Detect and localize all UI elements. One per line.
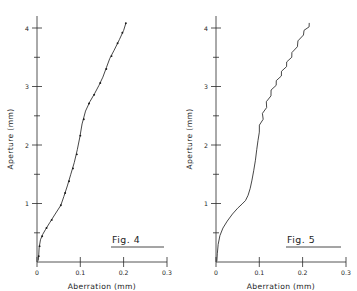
data-point [121, 32, 123, 34]
x-tick-label: 0.1 [254, 269, 264, 276]
axis-lines [216, 16, 346, 262]
x-tick-label: 0.3 [162, 269, 172, 276]
plot-canvas-fig-4: 1 2 3 4 0 0.1 0.2 0.3 Aberration (mm) Ap… [0, 0, 178, 291]
data-point [64, 192, 66, 194]
x-axis-title: Aberration (mm) [247, 282, 315, 291]
y-axis-tick-labels: 1 2 3 4 [25, 25, 29, 208]
figure-caption: Fig. 4 [112, 234, 140, 245]
data-line [38, 23, 126, 260]
figure-caption: Fig. 5 [287, 234, 315, 245]
data-point [117, 42, 119, 44]
figure-row: 1 2 3 4 0 0.1 0.2 0.3 Aberration (mm) Ap… [0, 0, 357, 291]
data-point [105, 68, 107, 70]
y-tick-label: 4 [25, 25, 29, 32]
data-series-fig-5 [217, 23, 309, 261]
data-point [60, 204, 62, 206]
y-axis-tick-labels: 1 2 3 4 [204, 25, 208, 208]
x-tick-label: 0.2 [298, 269, 308, 276]
y-axis-title: Aperture (mm) [185, 109, 194, 170]
x-tick-label: 0.1 [75, 269, 85, 276]
chart-panel-fig-5: 1 2 3 4 0 0.1 0.2 0.3 Aberration (mm) Ap… [179, 0, 357, 291]
x-tick-label: 0 [214, 269, 218, 276]
data-point [46, 227, 48, 229]
x-axis-tick-labels: 0 0.1 0.2 0.3 [214, 269, 351, 276]
data-line [217, 23, 309, 261]
y-tick-label: 4 [204, 25, 208, 32]
data-point [83, 118, 85, 120]
data-series-fig-4 [38, 22, 127, 260]
data-point [93, 94, 95, 96]
y-tick-label: 1 [25, 200, 29, 207]
data-point [72, 167, 74, 169]
data-point [68, 180, 70, 182]
x-tick-label: 0 [35, 269, 39, 276]
data-point [88, 103, 90, 105]
chart-panel-fig-4: 1 2 3 4 0 0.1 0.2 0.3 Aberration (mm) Ap… [0, 0, 178, 291]
y-tick-label: 2 [204, 142, 208, 149]
data-point [76, 153, 78, 155]
y-tick-label: 1 [204, 200, 208, 207]
data-point [38, 255, 40, 257]
x-axis-tick-labels: 0 0.1 0.2 0.3 [35, 269, 172, 276]
plot-canvas-fig-5: 1 2 3 4 0 0.1 0.2 0.3 Aberration (mm) Ap… [179, 0, 357, 291]
x-axis-title: Aberration (mm) [68, 282, 136, 291]
data-point [51, 219, 53, 221]
data-point [79, 135, 81, 137]
data-points [38, 22, 127, 257]
y-axis-title: Aperture (mm) [6, 109, 15, 170]
data-point [39, 245, 41, 247]
data-point [41, 235, 43, 237]
data-point [111, 55, 113, 57]
data-point [125, 22, 127, 24]
y-tick-label: 3 [25, 83, 29, 90]
y-tick-label: 2 [25, 142, 29, 149]
data-point [99, 82, 101, 84]
x-tick-label: 0.2 [119, 269, 129, 276]
x-tick-label: 0.3 [341, 269, 351, 276]
y-tick-label: 3 [204, 83, 208, 90]
axis-lines [37, 16, 167, 262]
